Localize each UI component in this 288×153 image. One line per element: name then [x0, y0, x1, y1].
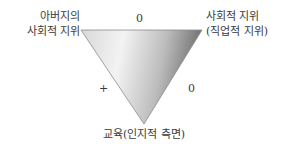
edge-sign-father-education: +: [99, 83, 108, 95]
father-social-status-label: 아버지의 사회적 지위: [10, 9, 80, 39]
inverted-triangle: [81, 30, 202, 124]
father-status-line1: 아버지의: [10, 9, 80, 24]
social-status-line1: 사회적 지위: [206, 9, 268, 24]
social-status-line2: (직업적 지위): [206, 24, 268, 39]
social-status-label: 사회적 지위 (직업적 지위): [206, 9, 268, 39]
father-status-line2: 사회적 지위: [10, 24, 80, 39]
edge-sign-social-education: 0: [188, 83, 195, 95]
education-label: 교육(인지적 측면): [0, 127, 288, 142]
edge-sign-father-social: 0: [136, 13, 143, 25]
